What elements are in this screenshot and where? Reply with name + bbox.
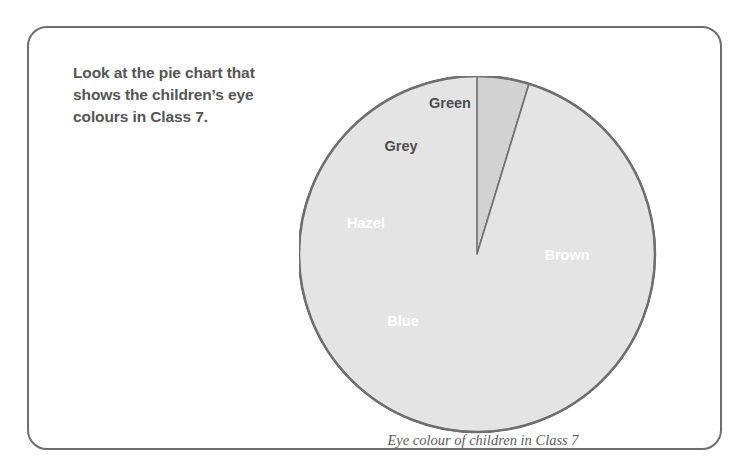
pie-slice-label-grey: Grey (384, 138, 417, 154)
question-prompt-line-2: shows the children’s eye (73, 84, 325, 106)
question-prompt-line-1: Look at the pie chart that (73, 62, 325, 84)
pie-slice-label-green: Green (429, 95, 471, 111)
pie-slice-label-blue: Blue (387, 313, 418, 329)
pie-slice-green (299, 76, 655, 432)
figure-caption: Eye colour of children in Class 7 (299, 432, 667, 449)
pie-slice-group (299, 76, 655, 432)
question-prompt: Look at the pie chart that shows the chi… (73, 62, 325, 128)
pie-chart-figure: BrownBlueHazelGreyGreen Eye colour of ch… (299, 76, 679, 456)
pie-slice-label-hazel: Hazel (347, 215, 385, 231)
pie-slice-label-brown: Brown (544, 247, 589, 263)
pie-chart-svg: BrownBlueHazelGreyGreen (299, 76, 667, 444)
pie-chart: BrownBlueHazelGreyGreen (299, 76, 667, 444)
question-prompt-line-3: colours in Class 7. (73, 106, 325, 128)
question-card: Look at the pie chart that shows the chi… (27, 26, 722, 450)
worksheet-page: Look at the pie chart that shows the chi… (0, 0, 755, 467)
